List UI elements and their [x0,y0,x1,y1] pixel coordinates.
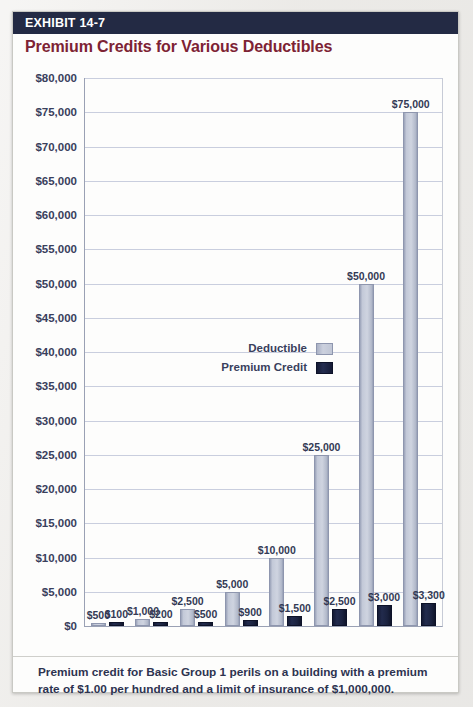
bar-value-label-premium-credit: $100 [105,608,128,620]
bar-value-label-premium-credit: $900 [239,606,262,618]
gridline [85,455,442,456]
bar-premium-credit [421,603,436,626]
gridline [85,421,442,422]
chart-legend: Deductible Premium Credit [158,341,333,379]
bar-premium-credit [332,609,347,626]
y-axis-tick-label: $5,000 [42,586,77,598]
bar-chart: $80,000$75,000$70,000$65,000$60,000$55,0… [13,64,460,656]
bar-value-label-premium-credit: $3,300 [413,589,445,601]
gridline [85,558,442,559]
bar-value-label-deductible: $2,500 [172,595,204,607]
exhibit-number-label: EXHIBIT 14-7 [25,16,105,30]
legend-swatch-deductible [316,343,333,355]
bar-deductible [135,619,150,626]
bar-value-label-premium-credit: $2,500 [323,595,355,607]
bar-value-label-premium-credit: $500 [194,608,217,620]
y-axis-tick-label: $70,000 [35,141,77,153]
page-title: Premium Credits for Various Deductibles [25,38,332,56]
y-axis-tick-label: $45,000 [35,312,77,324]
bar-deductible [180,609,195,626]
bar-value-label-deductible: $50,000 [347,270,385,282]
gridline [85,147,442,148]
gridline [85,318,442,319]
y-axis-tick-label: $15,000 [35,517,77,529]
gridline [85,215,442,216]
y-axis-tick-label: $65,000 [35,175,77,187]
gridline [85,181,442,182]
y-axis-tick-label: $20,000 [35,483,77,495]
bar-deductible [91,623,106,626]
bar-value-label-premium-credit: $3,000 [368,591,400,603]
legend-item-deductible: Deductible [158,341,333,358]
gridline [85,386,442,387]
y-axis-tick-label: $80,000 [35,72,77,84]
gridline [85,489,442,490]
y-axis-tick-label: $25,000 [35,449,77,461]
footnote-divider [13,656,458,657]
y-axis-tick-label: $30,000 [35,415,77,427]
bar-deductible [269,558,284,627]
bar-value-label-premium-credit: $200 [149,608,172,620]
bar-premium-credit [287,616,302,626]
exhibit-header-bar: EXHIBIT 14-7 [13,12,458,34]
y-axis-tick-label: $75,000 [35,106,77,118]
y-axis-tick-label: $50,000 [35,278,77,290]
exhibit-card: EXHIBIT 14-7 Premium Credits for Various… [12,11,459,693]
y-axis-tick-label: $60,000 [35,209,77,221]
bar-value-label-deductible: $75,000 [392,98,430,110]
bar-premium-credit [109,622,124,626]
bar-value-label-deductible: $10,000 [258,544,296,556]
bar-premium-credit [243,620,258,626]
gridline [85,249,442,250]
bar-value-label-premium-credit: $1,500 [279,602,311,614]
bar-deductible [359,284,374,627]
legend-item-premium-credit: Premium Credit [158,360,333,377]
bar-premium-credit [377,605,392,626]
y-axis-tick-label: $10,000 [35,552,77,564]
bar-premium-credit [198,622,213,626]
gridline [85,112,442,113]
legend-label-deductible: Deductible [248,342,307,354]
y-axis-tick-label: $40,000 [35,346,77,358]
y-axis-tick-label: $55,000 [35,243,77,255]
gridline [85,78,442,79]
bar-deductible [225,592,240,626]
legend-swatch-premium-credit [316,362,333,374]
y-axis-tick-label: $35,000 [35,380,77,392]
gridline [85,284,442,285]
footnote-text: Premium credit for Basic Group 1 perils … [38,664,438,698]
legend-label-premium-credit: Premium Credit [221,361,307,373]
y-axis-tick-label: $0 [64,620,77,632]
bar-value-label-deductible: $25,000 [302,441,340,453]
bar-premium-credit [153,622,168,626]
bar-value-label-deductible: $5,000 [216,578,248,590]
gridline [85,523,442,524]
y-axis-labels: $80,000$75,000$70,000$65,000$60,000$55,0… [13,78,77,626]
bar-deductible [403,112,418,626]
